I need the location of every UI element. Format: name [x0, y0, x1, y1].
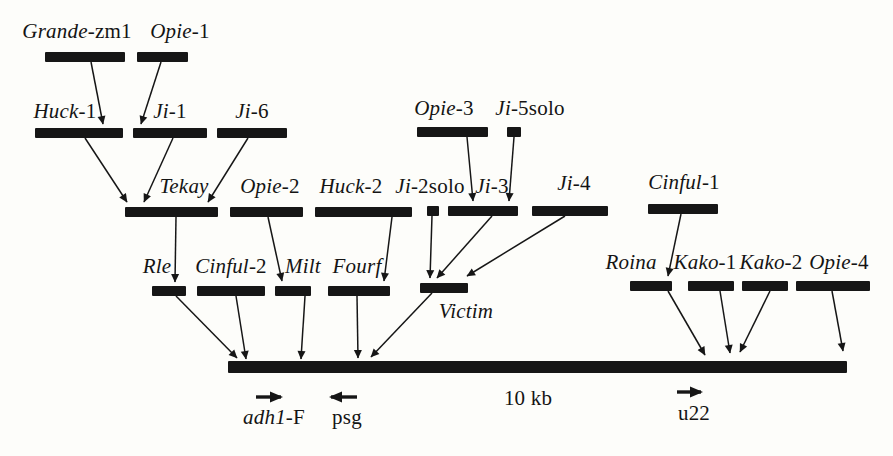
marker-label-u22: u22 — [678, 402, 710, 424]
element-label-ji-1: Ji-1 — [153, 100, 186, 122]
label-text: -2solo — [411, 174, 465, 198]
label-text-italic: Huck — [319, 174, 364, 198]
insertion-arrow-kako-1-into-genomic-bar — [720, 291, 730, 353]
element-label-opie-3: Opie-3 — [414, 97, 474, 119]
element-label-cinful-2: Cinful-2 — [195, 255, 267, 277]
element-bar-ji-4 — [532, 206, 608, 216]
label-text-italic: Opie — [240, 174, 282, 198]
label-text-italic: Cinful — [195, 254, 249, 278]
element-bar-huck-2 — [315, 207, 412, 217]
label-text: -3 — [491, 174, 509, 198]
label-text-italic: Ji — [235, 99, 251, 123]
insertion-arrow-opie-2-into-milt — [268, 217, 282, 281]
element-bar-milt — [275, 286, 311, 296]
label-text: psg — [332, 405, 362, 429]
label-text: -1 — [79, 99, 97, 123]
element-label-opie-4: Opie-4 — [809, 251, 869, 273]
label-text-italic: Opie — [809, 250, 851, 274]
label-text: -2 — [282, 174, 300, 198]
element-label-opie-1: Opie-1 — [150, 20, 210, 42]
element-label-ji-2solo: Ji-2solo — [395, 175, 464, 197]
insertion-arrow-ji-4-into-victim — [467, 216, 565, 276]
label-text: -6 — [251, 99, 269, 123]
element-bar-opie-4 — [796, 281, 870, 291]
element-bar-ji-1 — [133, 128, 207, 138]
element-bar-victim — [420, 283, 468, 293]
element-label-cinful-1: Cinful-1 — [648, 171, 720, 193]
label-text-italic: Ji — [395, 174, 411, 198]
label-text-italic: Opie — [150, 19, 192, 43]
label-text-italic: Milt — [285, 254, 321, 278]
label-text-italic: Rle — [143, 254, 172, 278]
element-bar-opie-1 — [137, 52, 188, 62]
label-text: -1 — [719, 250, 737, 274]
element-bar-grande-zm1 — [45, 52, 125, 62]
label-text: -3 — [456, 96, 474, 120]
marker-label-psg: psg — [332, 406, 362, 428]
label-text: -1 — [702, 170, 720, 194]
insertion-arrow-kako-2-into-genomic-bar — [740, 291, 770, 352]
label-text-italic: Kako — [739, 250, 784, 274]
label-text-italic: Cinful — [648, 170, 702, 194]
element-bar-ji-6 — [217, 128, 287, 138]
label-text-italic: Ji — [153, 99, 169, 123]
element-label-ji-5solo: Ji-5solo — [495, 97, 564, 119]
element-label-roina: Roina — [605, 251, 656, 273]
label-text: 10 kb — [504, 386, 552, 410]
element-label-ji-4: Ji-4 — [557, 172, 590, 194]
element-label-kako-1: Kako-1 — [673, 251, 736, 273]
insertion-arrow-milt-into-genomic-bar — [301, 296, 305, 359]
insertion-arrow-cinful-2-into-genomic-bar — [236, 296, 246, 359]
label-text: -1 — [192, 19, 210, 43]
label-text: u22 — [678, 401, 710, 425]
insertion-arrow-ji-3-into-victim — [437, 216, 492, 278]
insertion-arrow-ji-2solo-into-victim — [430, 216, 432, 278]
label-text-italic: adh1 — [243, 405, 286, 429]
element-bar-kako-2 — [742, 281, 788, 291]
label-text: -F — [286, 405, 305, 429]
label-text: -5solo — [511, 96, 565, 120]
insertion-arrow-huck-1-into-tekay — [85, 138, 127, 202]
element-bar-ji-5solo — [507, 127, 521, 137]
element-bar-ji-2solo — [427, 206, 439, 216]
label-text-italic: Grande — [22, 19, 87, 43]
element-bar-tekay — [125, 207, 218, 217]
label-text: -2 — [785, 250, 803, 274]
genomic-region-bar — [228, 361, 847, 373]
element-label-huck-1: Huck-1 — [33, 100, 96, 122]
element-label-opie-2: Opie-2 — [240, 175, 300, 197]
element-bar-huck-1 — [35, 128, 123, 138]
insertion-arrow-roina-into-genomic-bar — [668, 291, 705, 355]
label-text: -4 — [573, 171, 591, 195]
insertion-arrow-opie-3-into-ji-3 — [467, 137, 473, 201]
insertion-arrow-opie-4-into-genomic-bar — [832, 291, 843, 351]
label-text: -2 — [249, 254, 267, 278]
insertion-arrow-fourf-into-genomic-bar — [357, 296, 358, 358]
element-label-rle: Rle — [143, 255, 172, 277]
element-bar-opie-3 — [417, 127, 488, 137]
label-text-italic: Huck — [33, 99, 78, 123]
label-text-italic: Ji — [475, 174, 491, 198]
element-label-milt: Milt — [285, 255, 321, 277]
insertion-arrow-rle-into-genomic-bar — [176, 296, 237, 358]
label-text-italic: Ji — [495, 96, 511, 120]
arrows-layer — [0, 0, 893, 456]
label-text-italic: Fourf — [333, 254, 382, 278]
marker-label-adh1-f: adh1-F — [243, 406, 305, 428]
label-text: -2 — [365, 174, 383, 198]
element-label-ji-3: Ji-3 — [475, 175, 508, 197]
nested-retrotransposon-diagram: Grande-zm1Opie-1Huck-1Ji-1Ji-6Opie-3Ji-5… — [0, 0, 893, 456]
element-label-ji-6: Ji-6 — [235, 100, 268, 122]
element-label-kako-2: Kako-2 — [739, 251, 802, 273]
element-bar-cinful-1 — [648, 204, 718, 214]
label-text: -4 — [851, 250, 869, 274]
insertion-arrow-ji-5solo-into-ji-3 — [509, 137, 514, 201]
label-text: -1 — [169, 99, 187, 123]
marker-label-scale-10kb: 10 kb — [504, 387, 552, 409]
label-text-italic: Roina — [605, 250, 656, 274]
element-bar-cinful-2 — [197, 286, 265, 296]
label-text: -zm1 — [88, 19, 132, 43]
element-label-huck-2: Huck-2 — [319, 175, 382, 197]
element-bar-fourf — [328, 286, 390, 296]
element-label-victim: Victim — [439, 300, 493, 322]
